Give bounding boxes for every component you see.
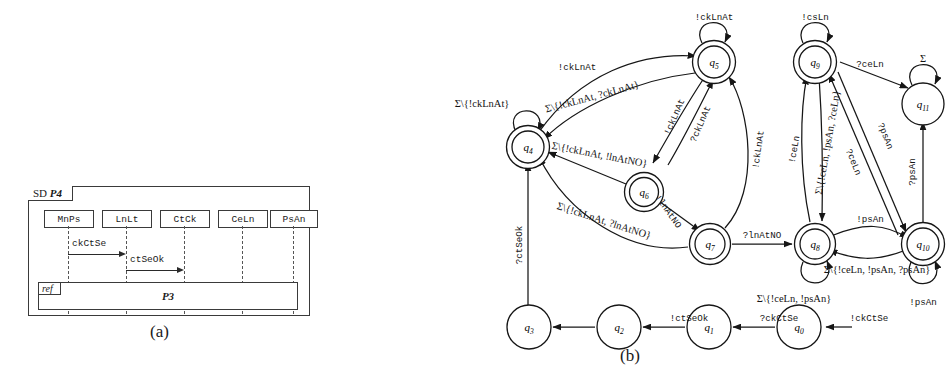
state-q7[interactable]: q7 [690,224,731,265]
state-q11[interactable]: q11 [902,83,944,125]
edge-label-q9-self: !csLn [801,12,829,23]
edge-q10-q8 [829,250,906,258]
state-q2[interactable]: q2 [597,305,641,349]
state-nodes: q0 q1 q2 q3 [507,41,945,350]
figure-root: SD P4 MnPs LnLt CtCk CeLn PsAn ckCtSe ct… [0,0,952,386]
sd-frame-name: P4 [50,187,62,199]
edge-label-q9-q11: ?ceLn [856,59,884,70]
edge-label-q7-q8: ?lnAtNO [743,230,782,241]
edge-label-q6-q5: ?ckLnAt [688,104,714,144]
state-q8[interactable]: q8 [795,224,836,265]
caption-a: (a) [150,322,169,342]
edge-label-q6-q4: Σ\{!ckLnAt, !lnAtNO} [551,140,649,169]
edge-label-q3-q4: ?ctSeOk [514,225,525,264]
edge-label-q8-q9: Σ\{!ceLn, !psAn, ?ceLn} [813,90,842,196]
lifeline-celn: CeLn [218,210,268,228]
edge-label-q10-self: !psAn [909,297,937,308]
state-q10[interactable]: q10 [902,223,945,266]
edge-label-q6-q7: !lnAtNO [652,193,684,231]
edge-label-q0-q1: !ckCtSe [850,313,889,324]
message-line-ckctse [68,254,119,255]
edge-label-q7-q5: !ckLnAt [750,130,766,170]
edge-label-q4-q5: !ckLnAt [558,62,597,73]
caption-b: (b) [620,346,640,366]
edge-label-q2-q3: !ctSeOk [670,313,709,324]
sequence-diagram: SD P4 MnPs LnLt CtCk CeLn PsAn ckCtSe ct… [28,186,310,316]
message-arrow-ctseok [177,267,184,273]
lifeline-ctck: CtCk [160,210,210,228]
message-label-ckctse: ckCtSe [72,238,106,249]
sd-frame-kind: SD [33,187,47,199]
edge-label-q8-q10: !psAn [856,214,884,225]
edge-label-q4-self: Σ\{!ckLnAt} [455,98,510,109]
edge-label-q5-q6: !ckLnAt [662,97,688,137]
state-q1[interactable]: q1 [687,305,731,349]
sd-frame-tag: SD P4 [28,186,73,201]
edge-q11-self [910,65,937,85]
edge-label-q10-q8: Σ\{!ceLn, !psAn, ?psAn} [824,264,931,275]
edge-label-q9-q10: ?psAn [875,121,896,151]
state-q3[interactable]: q3 [507,305,551,349]
message-arrow-ckctse [119,251,126,257]
ref-fragment: ref P3 [38,282,298,310]
edge-label-q10-q9: ?ceLn [843,147,864,177]
message-line-ctseok [126,270,177,271]
state-q9[interactable]: q9 [794,41,837,84]
message-label-ctseok: ctSeOk [130,254,164,265]
edge-label-q1-q2: ?ckCtSe [760,313,799,324]
edge-label-q5-q4: Σ\{!ckLnAt, ?ckLnAt} [544,79,640,115]
state-q4[interactable]: q4 [507,126,550,169]
lifeline-mnps: MnPs [44,210,94,228]
edge-q7-q5 [725,77,748,228]
edge-label-q9-q8: !ceLn [787,135,803,164]
fsm-svg: q0 q1 q2 q3 [310,0,952,386]
state-machine-diagram: q0 q1 q2 q3 [310,0,952,386]
state-q5[interactable]: q5 [693,41,736,84]
lifeline-lnlt: LnLt [102,210,152,228]
edge-q8-q10 [831,226,908,238]
edge-label-q11-self: Σ [920,53,926,64]
edge-label-q10-q11: ?psAn [907,158,918,186]
edge-label-q8-self: Σ\{!ceLn, !psAn} [757,293,832,304]
ref-fragment-name: P3 [39,283,297,309]
edge-q8-q9 [802,76,810,222]
state-q0[interactable]: q0 [777,305,821,349]
edge-label-q5-self: !ckLnAt [695,12,734,23]
